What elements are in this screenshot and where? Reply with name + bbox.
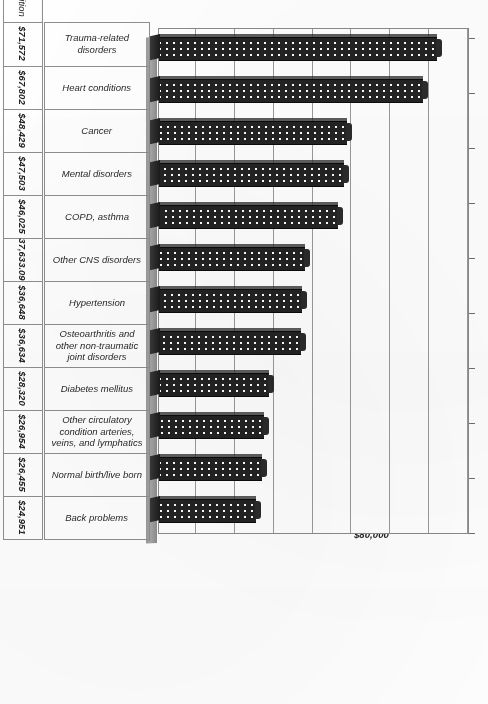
category-label-cell: Normal birth/live born xyxy=(45,453,149,496)
category-label-cell: Osteoarthritis and other non-traumatic j… xyxy=(45,324,149,367)
bar-osteoarthritis xyxy=(159,331,301,355)
bar-other-cns-disorders xyxy=(159,247,305,271)
bar-diabetes-mellitus xyxy=(159,373,269,397)
data-value-cell: $67,802 xyxy=(4,66,42,109)
axis-tick-mark xyxy=(468,478,475,479)
bar-cancer xyxy=(159,121,347,145)
category-label-cell: Other CNS disorders xyxy=(45,238,149,281)
data-value-cell: $36,648 xyxy=(4,281,42,324)
axis-tick-mark xyxy=(468,93,475,94)
data-value-cell: $47,503 xyxy=(4,152,42,195)
data-value-cell: 37,633.09 xyxy=(4,238,42,281)
category-label-cell: Heart conditions xyxy=(45,66,149,109)
category-label-cell: Trauma-related disorders xyxy=(45,21,149,66)
plot-area xyxy=(158,28,469,534)
category-label-cell: Back problems xyxy=(45,496,149,539)
bar-heart-conditions xyxy=(159,79,423,103)
data-value-cell: $26,954 xyxy=(4,410,42,453)
gridline xyxy=(428,29,429,533)
gridline xyxy=(273,29,274,533)
data-value-cell: $46,025 xyxy=(4,195,42,238)
axis-tick-mark xyxy=(468,368,475,369)
axis-tick-mark xyxy=(468,38,475,39)
axis-tick-mark xyxy=(468,203,475,204)
category-label-cell: Hypertension xyxy=(45,281,149,324)
category-label-cell: Mental disorders xyxy=(45,152,149,195)
bar-chart: $80,000 $70,000 $60,000 $50,000 $40,000 … xyxy=(0,0,488,540)
category-axis-title: Condition xyxy=(3,0,43,20)
gridline xyxy=(350,29,351,533)
gridline xyxy=(467,29,468,533)
axis-tick-mark xyxy=(468,148,475,149)
category-axis-labels: Back problems Normal birth/live born Oth… xyxy=(44,22,150,540)
axis-tick-mark xyxy=(468,423,475,424)
data-value-cell: $36,634 xyxy=(4,324,42,367)
gridline xyxy=(312,29,313,533)
data-value-cell: $26,455 xyxy=(4,453,42,496)
scanned-page: $80,000 $70,000 $60,000 $50,000 $40,000 … xyxy=(0,0,488,704)
bar-normal-birth xyxy=(159,457,262,481)
category-label-cell: Diabetes mellitus xyxy=(45,367,149,410)
data-value-cell: $48,429 xyxy=(4,109,42,152)
bar-hypertension xyxy=(159,289,302,313)
category-label-cell: Cancer xyxy=(45,109,149,152)
bar-copd-asthma xyxy=(159,205,338,229)
axis-tick-mark xyxy=(468,313,475,314)
data-value-cell: $28,320 xyxy=(4,367,42,410)
bar-other-circulatory xyxy=(159,415,264,439)
data-table-values: $24,951 $26,455 $26,954 $28,320 $36,634 … xyxy=(3,22,43,540)
gridline xyxy=(389,29,390,533)
axis-tick-mark xyxy=(468,258,475,259)
data-value-cell: $71,572 xyxy=(4,21,42,66)
category-label-cell: COPD, asthma xyxy=(45,195,149,238)
bar-trauma-related-disorders xyxy=(159,37,437,61)
bar-mental-disorders xyxy=(159,163,344,187)
category-label-cell: Other circulatory condition arteries, ve… xyxy=(45,410,149,453)
bar-back-problems xyxy=(159,499,256,523)
axis-tick-mark xyxy=(468,533,475,534)
data-value-cell: $24,951 xyxy=(4,496,42,539)
